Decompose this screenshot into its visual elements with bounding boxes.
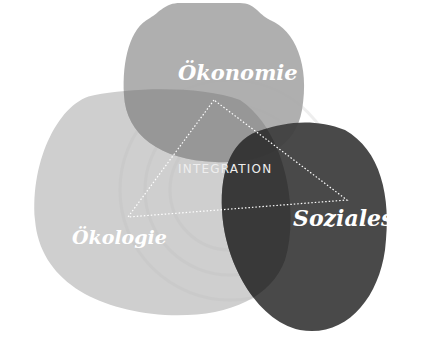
sustainability-venn-diagram bbox=[0, 0, 431, 348]
